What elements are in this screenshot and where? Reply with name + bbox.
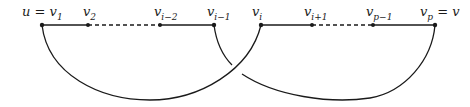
vertex-labels: u = v1 v2 vi−2 vi−1 vi vi+1 vp−1 vp = v <box>22 4 460 22</box>
vertex-vi+1 <box>310 23 314 27</box>
label-vi: vi <box>252 4 262 22</box>
vertex-vi-1 <box>212 23 216 27</box>
label-v1: u = v1 <box>22 4 63 22</box>
arc-v1-vi <box>42 25 261 100</box>
path-diagram: u = v1 v2 vi−2 vi−1 vi vi+1 vp−1 vp = v <box>0 0 470 107</box>
arc-vi-1-vp-lower <box>242 25 435 100</box>
vertex-v2 <box>86 23 90 27</box>
label-vi+1: vi+1 <box>304 4 328 22</box>
arcs <box>42 25 435 100</box>
vertex-vi-2 <box>158 23 162 27</box>
label-vp: vp = v <box>420 4 460 22</box>
arc-vi-1-vp-upper <box>214 25 232 65</box>
label-vi-2: vi−2 <box>154 4 178 22</box>
vertex-vp <box>433 23 437 27</box>
label-v2: v2 <box>83 4 96 22</box>
label-vi-1: vi−1 <box>207 4 231 22</box>
label-vp-1: vp−1 <box>366 4 392 22</box>
vertex-v1 <box>40 23 44 27</box>
vertex-vp-1 <box>371 23 375 27</box>
vertex-vi <box>259 23 263 27</box>
